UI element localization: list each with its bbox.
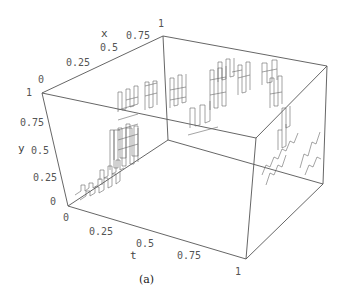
y-tick-05: 0.5 [31, 145, 49, 156]
y-tick-1: 1 [26, 87, 32, 98]
plot-3d: 0 0.25 0.5 0.75 1 x 1 0.75 0.5 0.25 0 y … [0, 0, 359, 305]
t-tick-025: 0.25 [89, 226, 113, 237]
t-tick-075: 0.75 [177, 250, 201, 261]
y-axis-label: y [18, 142, 25, 155]
x-axis-label: x [101, 27, 108, 40]
x-axis: 0 0.25 0.5 0.75 1 x [38, 18, 164, 85]
t-tick-0: 0 [63, 212, 69, 223]
y-tick-0: 0 [50, 196, 56, 207]
x-tick-025: 0.25 [66, 57, 90, 68]
t-axis-label: t [130, 249, 137, 262]
t-tick-05: 0.5 [136, 238, 154, 249]
x-tick-05: 0.5 [100, 42, 118, 53]
fractal-points [75, 58, 321, 200]
x-tick-075: 0.75 [126, 30, 150, 41]
t-axis: 0 0.25 0.5 0.75 1 t [63, 212, 241, 277]
figure-caption: (a) [139, 273, 154, 286]
y-tick-075: 0.75 [20, 117, 44, 128]
box-edges [42, 36, 327, 259]
x-tick-0: 0 [38, 74, 44, 85]
x-tick-1: 1 [158, 18, 164, 29]
y-tick-025: 0.25 [33, 172, 57, 183]
y-axis: 1 0.75 0.5 0.25 0 y [18, 87, 57, 207]
t-tick-1: 1 [235, 266, 241, 277]
